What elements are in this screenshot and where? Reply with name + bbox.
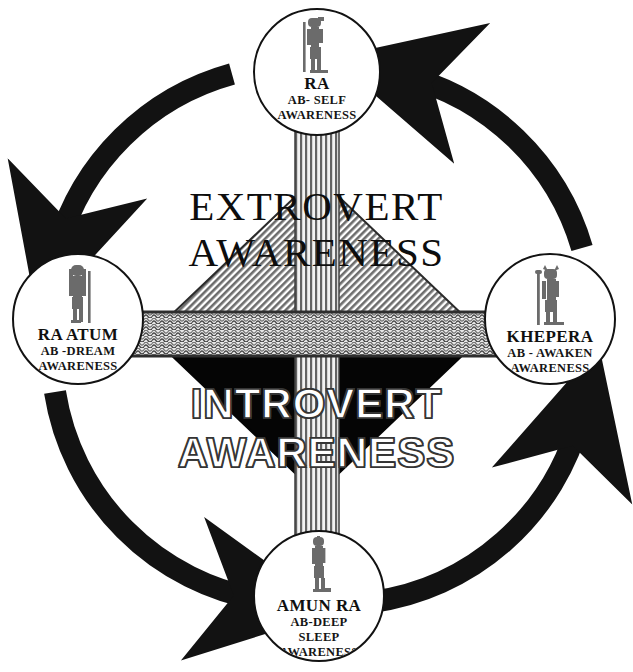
arrow-to-ra bbox=[404, 76, 582, 248]
arrow-to-khepera bbox=[372, 418, 580, 602]
arrow-to-amun-ra bbox=[55, 392, 262, 600]
node-amun-ra-sub-1: SLEEP bbox=[261, 630, 377, 645]
node-ra-title: RA bbox=[261, 75, 373, 93]
node-ra-atum-title: RA ATUM bbox=[20, 326, 136, 344]
node-ra-atum[interactable]: RA ATUM AB -DREAM AWARENESS bbox=[12, 253, 144, 385]
arrow-to-ra-atum bbox=[58, 74, 232, 246]
awareness-cycle-diagram: RA AB- SELF AWARENESS bbox=[0, 0, 633, 672]
horizontal-axis-band bbox=[108, 312, 528, 356]
node-amun-ra-sub-0: AB-DEEP bbox=[261, 615, 377, 630]
node-ra-labels: RA AB- SELF AWARENESS bbox=[255, 75, 379, 123]
node-khepera[interactable]: KHEPERA AB - AWAKEN AWARENESS bbox=[484, 253, 616, 385]
node-amun-ra-title: AMUN RA bbox=[261, 597, 377, 615]
node-khepera-title: KHEPERA bbox=[492, 328, 608, 346]
node-ra-sub-0: AB- SELF bbox=[261, 93, 373, 108]
egyptian-deity-figure-amun-ra-icon bbox=[303, 536, 335, 596]
node-amun-ra[interactable]: AMUN RA AB-DEEP SLEEP AWARENESS bbox=[253, 530, 385, 662]
node-ra-sub-1: AWARENESS bbox=[261, 108, 373, 123]
egyptian-deity-figure-ra-atum-icon bbox=[60, 263, 96, 325]
node-ra[interactable]: RA AB- SELF AWARENESS bbox=[253, 8, 381, 136]
node-khepera-sub-0: AB - AWAKEN bbox=[492, 346, 608, 361]
egyptian-deity-figure-khepera-icon bbox=[531, 263, 569, 327]
egyptian-deity-figure-ra-icon bbox=[300, 16, 334, 74]
node-ra-atum-sub-0: AB -DREAM bbox=[20, 344, 136, 359]
node-ra-atum-labels: RA ATUM AB -DREAM AWARENESS bbox=[14, 326, 142, 374]
